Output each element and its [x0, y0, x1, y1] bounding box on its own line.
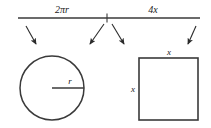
right-segment-label: 4x: [148, 4, 158, 15]
arrow-to-circle-right-icon: [90, 24, 104, 44]
square-top-side-label: x: [166, 47, 171, 57]
arrow-to-square-left-icon: [112, 24, 124, 44]
segment-bar: [18, 14, 200, 23]
figure-canvas: 2πr 4x r x x: [0, 0, 211, 128]
circle-radius-label: r: [68, 76, 72, 86]
square-shape: x x: [130, 47, 198, 120]
arrow-to-circle-left-icon: [26, 26, 36, 44]
arrow-to-square-right-icon: [188, 26, 196, 44]
square-outline: [139, 58, 198, 120]
left-segment-label: 2πr: [55, 4, 69, 15]
geometry-figure: 2πr 4x r x x: [0, 0, 211, 128]
circle-shape: r: [20, 56, 84, 120]
square-left-side-label: x: [130, 84, 135, 94]
